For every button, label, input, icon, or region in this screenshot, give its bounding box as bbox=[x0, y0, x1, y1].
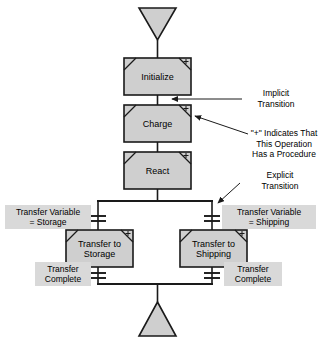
step-box-react[interactable] bbox=[124, 152, 191, 189]
annotation-line1: Implicit bbox=[263, 88, 289, 98]
annotation-plus-procedure-note: "+" Indicates That This Operation Has a … bbox=[244, 128, 324, 160]
condition-line1: Transfer bbox=[47, 264, 78, 274]
condition-line1: Transfer Variable bbox=[237, 207, 301, 217]
step-box-initialize[interactable] bbox=[124, 58, 191, 95]
condition-label-transfer-complete-left: Transfer Complete bbox=[35, 262, 91, 286]
step-box-charge[interactable] bbox=[124, 105, 191, 142]
condition-line1: Transfer Variable bbox=[16, 207, 80, 217]
leader-plus-procedure-note bbox=[195, 116, 248, 134]
annotation-implicit-transition: Implicit Transition bbox=[245, 88, 307, 109]
condition-line2: Complete bbox=[45, 274, 81, 284]
sfc-diagram-canvas: Initialize Charge React Transfer to Stor… bbox=[0, 0, 325, 345]
annotation-line1: "+" Indicates That bbox=[251, 128, 318, 138]
condition-line2: = Storage bbox=[29, 217, 66, 227]
exit-triangle bbox=[139, 302, 176, 336]
condition-line2: = Shipping bbox=[249, 217, 289, 227]
condition-label-transfer-complete-right: Transfer Complete bbox=[224, 262, 282, 286]
annotation-line2: Transition bbox=[261, 181, 298, 191]
annotation-line1: Explicit bbox=[267, 170, 294, 180]
annotation-line2: Transition bbox=[257, 99, 294, 109]
annotation-line3: Has a Procedure bbox=[252, 149, 316, 159]
condition-line1: Transfer bbox=[237, 264, 268, 274]
leader-explicit-transition bbox=[218, 183, 240, 203]
annotation-explicit-transition: Explicit Transition bbox=[249, 170, 311, 191]
entry-triangle bbox=[139, 8, 176, 40]
condition-label-transfer-variable-storage: Transfer Variable = Storage bbox=[5, 205, 91, 229]
condition-label-transfer-variable-shipping: Transfer Variable = Shipping bbox=[222, 205, 316, 229]
annotation-line2: This Operation bbox=[256, 139, 312, 149]
condition-line2: Complete bbox=[235, 274, 271, 284]
